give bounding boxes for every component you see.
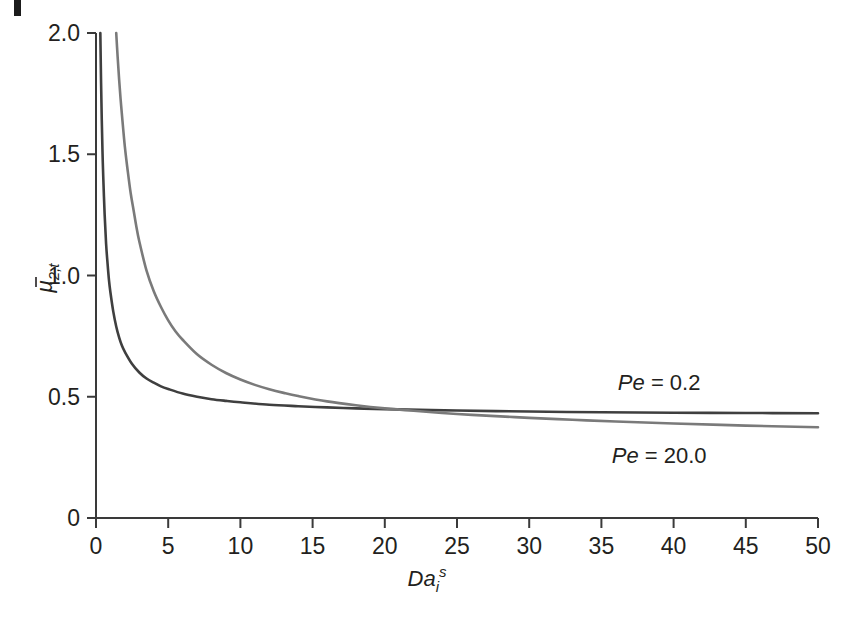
y-tick-label: 0 — [67, 505, 80, 531]
y-tick-label: 0.5 — [48, 384, 80, 410]
x-tick-label: 35 — [589, 533, 615, 559]
line-chart: 00.51.01.52.0 05101520253035404550 Pe = … — [0, 0, 860, 620]
x-axis-tick-labels: 05101520253035404550 — [90, 533, 831, 559]
x-tick-label: 0 — [90, 533, 103, 559]
x-tick-label: 30 — [516, 533, 542, 559]
data-curves-group — [100, 33, 818, 427]
curve-annotation-1: Pe = 0.2 — [618, 370, 701, 395]
scan-edge-artifact — [14, 0, 21, 16]
curve-1 — [100, 33, 818, 413]
x-tick-label: 40 — [661, 533, 687, 559]
x-axis-title: Dais — [408, 563, 447, 595]
y-axis-ticks — [87, 33, 96, 518]
x-tick-label: 50 — [805, 533, 831, 559]
y-tick-label: 2.0 — [48, 20, 80, 46]
axes-group — [96, 33, 818, 518]
y-tick-label: 1.5 — [48, 141, 80, 167]
x-tick-label: 20 — [372, 533, 398, 559]
figure-root: 00.51.01.52.0 05101520253035404550 Pe = … — [0, 0, 860, 620]
x-tick-label: 15 — [300, 533, 326, 559]
x-tick-label: 10 — [228, 533, 254, 559]
curve-annotation-2: Pe = 20.0 — [612, 443, 707, 468]
x-axis-title-text: Dais — [408, 563, 447, 595]
x-tick-label: 5 — [162, 533, 175, 559]
x-axis-ticks — [96, 518, 818, 528]
x-tick-label: 25 — [444, 533, 470, 559]
curve-2 — [116, 33, 818, 427]
curve-annotations-group: Pe = 0.2Pe = 20.0 — [612, 370, 707, 468]
y-axis-title: μ2,t — [32, 263, 62, 294]
x-tick-label: 45 — [733, 533, 759, 559]
